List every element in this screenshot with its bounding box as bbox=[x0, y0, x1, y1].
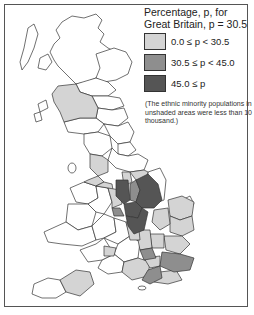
legend-label-low: 0.0 ≤ p < 30.5 bbox=[171, 36, 229, 47]
legend-item-high: 45.0 ≤ p bbox=[144, 74, 248, 93]
legend-title: Percentage, p, for Great Britain, p = 30… bbox=[144, 6, 248, 30]
region-durham bbox=[118, 142, 136, 156]
legend-label-mid: 30.5 ≤ p < 45.0 bbox=[171, 57, 235, 68]
region-cambs bbox=[152, 208, 170, 230]
legend-label-high: 45.0 ≤ p bbox=[171, 78, 205, 89]
region-western-isles bbox=[20, 24, 38, 70]
legend-title-line1: Percentage, p, for bbox=[144, 6, 248, 18]
legend-swatch-high bbox=[144, 75, 166, 92]
region-suffolk bbox=[170, 216, 194, 236]
region-berkshire bbox=[140, 248, 156, 260]
isle-of-wight bbox=[138, 286, 146, 290]
legend-swatch-mid bbox=[144, 54, 166, 71]
region-skye bbox=[38, 54, 52, 70]
region-islay bbox=[34, 112, 42, 122]
legend-note: (The ethnic minority populations in unsh… bbox=[145, 100, 253, 126]
legend-title-line2: Great Britain, p = 30.5 bbox=[144, 18, 248, 30]
isle-of-man bbox=[68, 163, 76, 173]
region-shropshire-dark bbox=[112, 208, 124, 216]
region-cumbria bbox=[84, 132, 112, 156]
map-legend: Percentage, p, for Great Britain, p = 30… bbox=[144, 6, 248, 95]
region-essex bbox=[164, 236, 190, 254]
legend-swatch-low bbox=[144, 33, 166, 50]
region-lancashire bbox=[90, 154, 108, 176]
region-kent bbox=[160, 252, 194, 272]
region-grampian bbox=[96, 48, 132, 82]
region-avon bbox=[104, 246, 116, 256]
legend-item-low: 0.0 ≤ p < 30.5 bbox=[144, 32, 248, 51]
legend-item-mid: 30.5 ≤ p < 45.0 bbox=[144, 53, 248, 72]
region-mull bbox=[38, 100, 48, 112]
